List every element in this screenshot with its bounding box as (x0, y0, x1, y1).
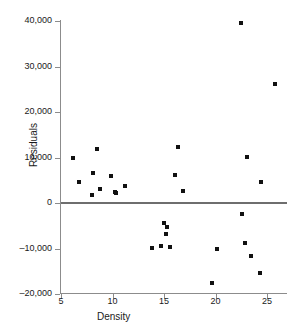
y-tick (55, 112, 60, 113)
data-point (176, 145, 180, 149)
data-point (71, 156, 75, 160)
data-point (90, 193, 94, 197)
data-point (259, 180, 263, 184)
data-point (239, 21, 243, 25)
y-axis-title: Residuals (29, 105, 39, 185)
data-point (210, 281, 214, 285)
y-tick-label-wrap: 20,000 (0, 107, 52, 116)
zero-reference-line (61, 202, 287, 204)
data-point (150, 246, 154, 250)
data-point (114, 191, 118, 195)
y-tick-label-wrap: 30,000 (0, 62, 52, 71)
data-point (162, 221, 166, 225)
x-axis-title: Density (97, 312, 217, 322)
y-tick-label-wrap: 40,000 (0, 16, 52, 25)
data-point (98, 187, 102, 191)
data-point (243, 241, 247, 245)
x-tick-label: 10 (98, 297, 128, 306)
y-tick (55, 203, 60, 204)
y-tick-label-wrap: –20,000 (0, 289, 52, 298)
x-tick-label: 25 (252, 297, 282, 306)
data-point (91, 171, 95, 175)
x-tick-label: 20 (201, 297, 231, 306)
data-point (173, 173, 177, 177)
data-point (164, 232, 168, 236)
data-point (240, 212, 244, 216)
x-tick-label: 5 (46, 297, 76, 306)
y-tick (55, 67, 60, 68)
data-point (109, 174, 113, 178)
y-axis-line (60, 20, 61, 294)
x-axis-line (60, 293, 287, 294)
x-tick-label: 15 (149, 297, 179, 306)
data-point (245, 155, 249, 159)
data-point (168, 245, 172, 249)
y-tick-label-wrap: 10,000 (0, 153, 52, 162)
data-point (249, 254, 253, 258)
data-point (123, 184, 127, 188)
data-point (165, 225, 169, 229)
y-tick (55, 294, 60, 295)
y-tick (55, 21, 60, 22)
y-tick-label-wrap: 0 (0, 198, 52, 207)
data-point (95, 147, 99, 151)
y-tick-label-wrap: –10,000 (0, 244, 52, 253)
residual-plot-figure: –20,000–10,000010,00020,00030,00040,000 … (0, 0, 294, 332)
y-tick-label: 0 (47, 198, 52, 207)
y-tick (55, 249, 60, 250)
y-tick-label: 30,000 (24, 62, 52, 71)
y-tick (55, 158, 60, 159)
y-tick-label: –10,000 (19, 244, 52, 253)
data-point (159, 244, 163, 248)
y-tick-label: 40,000 (24, 16, 52, 25)
data-point (273, 82, 277, 86)
data-point (215, 247, 219, 251)
data-point (77, 180, 81, 184)
data-point (258, 271, 262, 275)
data-point (181, 189, 185, 193)
